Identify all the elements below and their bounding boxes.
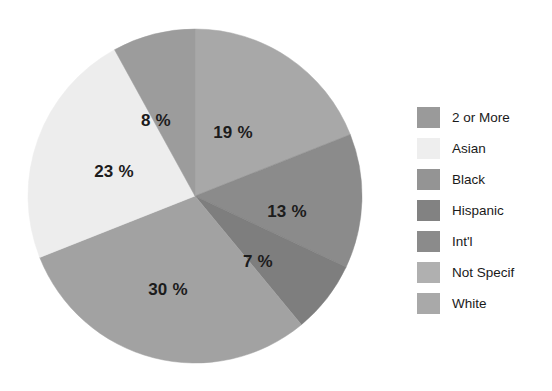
legend-color-swatch (417, 293, 440, 314)
legend-item-label: Black (452, 173, 485, 187)
pie-slice-value-label: 30 % (148, 280, 188, 300)
pie-slice-value-label: 13 % (267, 202, 307, 222)
pie-slices (28, 29, 362, 363)
legend-item[interactable]: 2 or More (417, 102, 549, 133)
legend-item-label: Hispanic (452, 204, 504, 218)
pie-slice-value-label: 7 % (243, 252, 273, 272)
legend-item-label: Int'l (452, 235, 473, 249)
legend-item[interactable]: Not Specif (417, 257, 549, 288)
pie-chart-figure: 19 %13 %7 %30 %23 %8 % 2 or MoreAsianBla… (0, 0, 552, 391)
legend-item[interactable]: Hispanic (417, 195, 549, 226)
legend-color-swatch (417, 231, 440, 252)
legend-color-swatch (417, 169, 440, 190)
chart-legend: 2 or MoreAsianBlackHispanicInt'lNot Spec… (417, 102, 549, 319)
legend-color-swatch (417, 107, 440, 128)
legend-color-swatch (417, 138, 440, 159)
legend-item[interactable]: Black (417, 164, 549, 195)
legend-item-label: Asian (452, 142, 486, 156)
pie-slice-value-label: 19 % (213, 123, 253, 143)
legend-item-label: Not Specif (452, 266, 514, 280)
legend-item-label: 2 or More (452, 111, 510, 125)
legend-item[interactable]: Asian (417, 133, 549, 164)
legend-color-swatch (417, 262, 440, 283)
pie-slice-value-label: 8 % (141, 111, 171, 131)
pie-slice-value-label: 23 % (94, 162, 134, 182)
legend-item[interactable]: Int'l (417, 226, 549, 257)
legend-item[interactable]: White (417, 288, 549, 319)
legend-item-label: White (452, 297, 487, 311)
legend-color-swatch (417, 200, 440, 221)
